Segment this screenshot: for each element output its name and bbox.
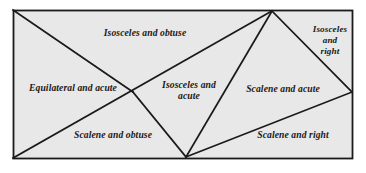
figure-canvas: [0, 0, 366, 173]
triangle-classification-figure: Isosceles and obtuse Isosceles and right…: [0, 0, 366, 173]
panel-background: [14, 11, 353, 159]
